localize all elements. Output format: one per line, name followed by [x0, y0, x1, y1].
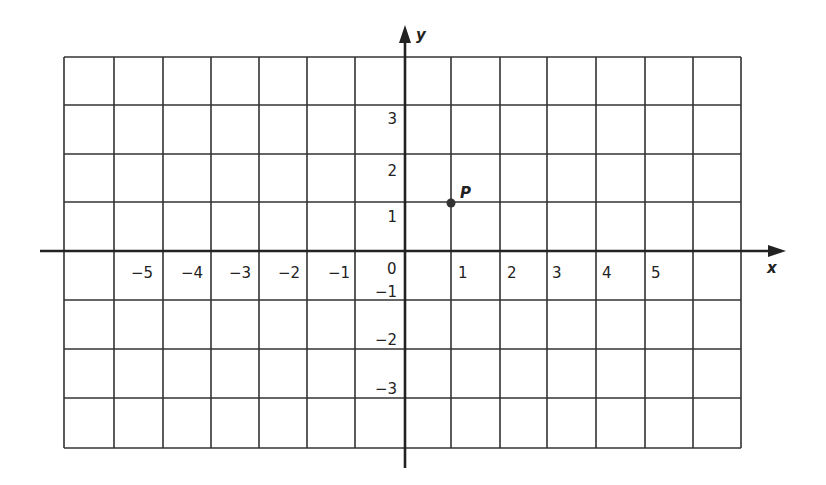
y-axis-label: y: [416, 26, 427, 44]
y-tick-3: 3: [387, 110, 397, 128]
x-tick-5: 5: [651, 264, 661, 282]
y-tick-1: 1: [387, 208, 397, 226]
x-axis-arrow-icon: [768, 245, 786, 257]
point-p-label: P: [460, 184, 471, 202]
y-axis-arrow-icon: [399, 25, 411, 43]
x-tick-neg5: −5: [131, 264, 153, 282]
x-tick-4: 4: [602, 264, 612, 282]
x-tick-neg1: −1: [328, 264, 350, 282]
x-tick-1: 1: [458, 264, 468, 282]
y-tick-neg2: −2: [375, 331, 397, 349]
x-tick-2: 2: [507, 264, 517, 282]
coordinate-plane: x y −5 −4 −3 −2 −1 1 2 3 4 5 0 3 2 1 −1 …: [0, 0, 826, 485]
x-axis-label: x: [766, 259, 778, 277]
x-tick-3: 3: [552, 264, 562, 282]
origin-label: 0: [387, 260, 397, 278]
y-tick-neg3: −3: [375, 380, 397, 398]
grid: [64, 57, 741, 448]
x-tick-neg3: −3: [229, 264, 251, 282]
x-tick-neg4: −4: [181, 264, 203, 282]
y-axis: y: [399, 25, 427, 468]
x-tick-neg2: −2: [278, 264, 300, 282]
point-p: P: [447, 184, 472, 208]
y-tick-2: 2: [387, 162, 397, 180]
y-tick-neg1: −1: [375, 283, 397, 301]
point-marker-icon: [447, 199, 456, 208]
